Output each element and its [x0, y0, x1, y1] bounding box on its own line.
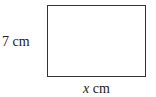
width-unit: cm — [89, 81, 110, 96]
height-label: 7 cm — [2, 34, 30, 50]
rectangle-shape — [47, 5, 146, 77]
width-label: x cm — [83, 81, 110, 97]
